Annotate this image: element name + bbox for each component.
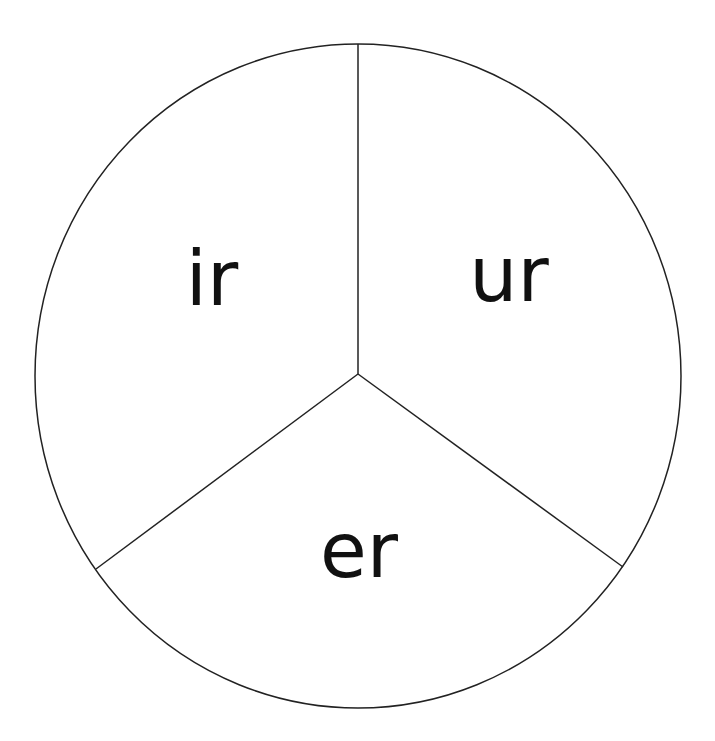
divider-line-left	[96, 374, 358, 569]
segment-label-er: er	[320, 506, 399, 595]
phonics-spinner-diagram: ir ur er	[0, 0, 715, 741]
segment-label-ir: ir	[186, 234, 239, 323]
segment-label-ur: ur	[469, 230, 549, 319]
